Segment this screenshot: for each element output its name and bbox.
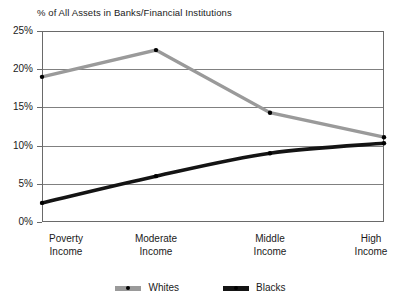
legend-swatch <box>115 286 141 291</box>
legend-label: Blacks <box>256 283 285 293</box>
legend-marker-dot <box>126 286 130 290</box>
series-layer <box>42 31 384 222</box>
data-point-marker <box>40 201 44 205</box>
y-axis-tick-label: 5% <box>19 179 33 189</box>
data-point-marker <box>154 174 158 178</box>
x-axis: PovertyIncomeModerateIncomeMiddleIncomeH… <box>0 232 401 266</box>
y-axis-tick-label: 25% <box>13 26 33 36</box>
legend-swatch <box>223 286 249 291</box>
data-point-marker <box>268 111 272 115</box>
y-axis-tick-label: 20% <box>13 64 33 74</box>
legend-item-blacks[interactable]: Blacks <box>223 283 285 293</box>
y-axis: 0%5%10%15%20%25% <box>0 31 38 222</box>
y-axis-tick-label: 0% <box>19 217 33 227</box>
data-point-marker <box>382 141 386 145</box>
y-axis-tick-label: 15% <box>13 102 33 112</box>
series-blacks <box>40 141 386 205</box>
data-point-marker <box>40 75 44 79</box>
series-line <box>42 50 384 137</box>
x-axis-category-label: MiddleIncome <box>254 232 287 258</box>
data-point-marker <box>268 151 272 155</box>
x-axis-category-label: PovertyIncome <box>49 232 83 258</box>
data-point-marker <box>154 48 158 52</box>
chart-title: % of All Assets in Banks/Financial Insti… <box>37 7 232 19</box>
legend-label: Whites <box>148 283 179 293</box>
x-axis-category-label: HighIncome <box>355 232 388 258</box>
y-axis-tick-mark <box>37 222 42 223</box>
y-axis-tick-label: 10% <box>13 141 33 151</box>
legend-marker-dot <box>234 286 238 290</box>
chart-legend: WhitesBlacks <box>0 279 401 297</box>
x-axis-category-label: ModerateIncome <box>135 232 177 258</box>
data-point-marker <box>382 135 386 139</box>
chart-container: % of All Assets in Banks/Financial Insti… <box>0 0 401 303</box>
legend-item-whites[interactable]: Whites <box>115 283 179 293</box>
series-line <box>42 143 384 203</box>
series-whites <box>40 48 386 139</box>
